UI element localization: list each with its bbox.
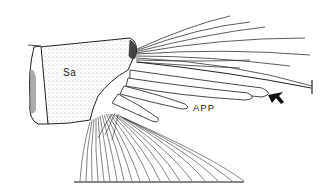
diagram-figure (0, 0, 330, 186)
segment-line (28, 45, 40, 46)
basal-stipple (30, 70, 36, 114)
arrow-icon (268, 92, 284, 104)
segment-sa (40, 38, 136, 124)
segment-label: Sa (63, 67, 76, 78)
lower-fan (80, 113, 244, 181)
appendage-label: APP (193, 102, 215, 113)
appendage-lobes (112, 70, 269, 122)
